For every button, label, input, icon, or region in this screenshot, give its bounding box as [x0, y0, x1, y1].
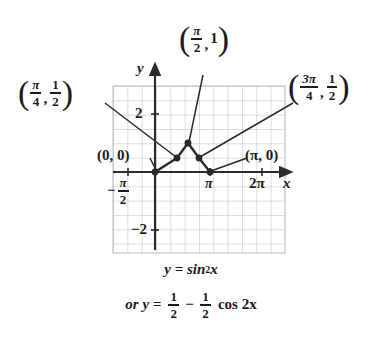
fraction-pi-over-2: π 2	[191, 24, 202, 54]
axis-label-x: x	[283, 175, 291, 192]
fraction-one-half-a: 1 2	[168, 290, 179, 320]
comma: ,	[43, 91, 47, 108]
variable: x	[210, 262, 218, 277]
fraction-numerator: π	[191, 24, 202, 37]
fraction-denominator: 2	[50, 95, 61, 108]
cos-term: cos 2x	[218, 297, 257, 312]
equation-lhs: or y =	[125, 297, 161, 312]
tick-label-pi: π	[205, 176, 213, 192]
y-value: 1	[210, 31, 218, 46]
paren-close: )	[62, 79, 73, 107]
comma: ,	[320, 85, 324, 102]
tick-label-y-2: 2	[135, 105, 143, 122]
fraction-denominator: 2	[171, 307, 178, 320]
label-point-pi-zero: (π, 0)	[245, 147, 278, 164]
fraction-denominator: 4	[304, 89, 315, 102]
fraction-denominator: 2	[192, 41, 203, 54]
tick-label-2pi: 2π	[249, 175, 265, 192]
fraction-numerator: 3π	[300, 72, 318, 85]
label-point-pi-over-2: ( π 2 , 1 )	[179, 24, 229, 54]
fraction-3pi-over-4: 3π 4	[300, 72, 318, 102]
fraction-numerator: π	[118, 176, 129, 189]
axis-label-y: y	[137, 60, 144, 77]
paren-open: (	[18, 79, 29, 107]
math-figure: ( π 4 , 1 2 ) ( π 2 , 1 ) ( 3π 4	[0, 0, 382, 345]
tick-label-neg-pi-over-2: − π 2	[107, 176, 130, 206]
fraction-numerator: 1	[202, 290, 209, 303]
paren-open: (	[179, 25, 190, 53]
fraction-numerator: 1	[171, 290, 178, 303]
equation-sin-squared: y = sin2x	[0, 262, 382, 277]
fraction-denominator: 2	[327, 89, 338, 102]
equation-lhs: y = sin	[164, 262, 205, 277]
fraction-one-half: 1 2	[50, 78, 61, 108]
point-pi-over-2	[185, 140, 192, 147]
minus-sign: −	[107, 182, 116, 199]
fraction-denominator: 2	[202, 307, 209, 320]
label-point-pi-over-4: ( π 4 , 1 2 )	[18, 78, 73, 108]
paren-open: (	[288, 73, 299, 101]
tick-label-y-neg2: −2	[131, 221, 147, 238]
fraction-denominator: 4	[31, 95, 42, 108]
fraction-numerator: π	[30, 78, 41, 91]
paren-close: )	[218, 25, 229, 53]
point-pi	[207, 169, 214, 176]
fraction-denominator: 2	[118, 193, 129, 206]
fraction-numerator: 1	[327, 72, 338, 85]
fraction-pi-over-2: π 2	[118, 176, 129, 206]
comma: ,	[204, 37, 208, 54]
label-point-origin: (0, 0)	[97, 147, 130, 164]
fraction-numerator: 1	[50, 78, 61, 91]
label-point-3pi-over-4: ( 3π 4 , 1 2 )	[288, 72, 350, 102]
fraction-one-half: 1 2	[327, 72, 338, 102]
paren-close: )	[338, 73, 349, 101]
minus-operator: −	[185, 297, 194, 312]
fraction-one-half-b: 1 2	[200, 290, 211, 320]
fraction-pi-over-4: π 4	[30, 78, 41, 108]
equation-half-minus-half-cos: or y = 1 2 − 1 2 cos 2x	[0, 290, 382, 320]
